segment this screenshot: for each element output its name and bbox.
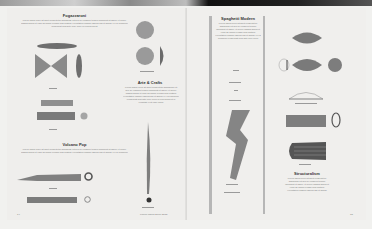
farfalle-side-icon — [75, 54, 83, 78]
section-body-2: Lorem ipsum dolor sit amet consectetur a… — [123, 86, 179, 118]
section-body-1: Lorem ipsum dolor sit amet consectetur a… — [21, 19, 128, 35]
caption-line — [234, 90, 238, 91]
fusilli-end-icon — [80, 112, 88, 120]
vertical-rule — [263, 16, 265, 214]
left-page: Fogazzaroni Lorem ipsum dolor sit amet c… — [7, 8, 187, 220]
caption-line — [233, 70, 239, 71]
tube-pasta-icon — [17, 173, 81, 182]
caption-line — [224, 192, 240, 193]
zigzag-pasta-icon — [222, 110, 252, 180]
wire-mesh-icon — [289, 88, 323, 100]
section-title-3: Volcano Pop — [27, 142, 122, 147]
section-title-5: Structuralism — [283, 171, 331, 176]
page-number-left: 14 — [17, 213, 20, 216]
caption-line — [229, 82, 241, 83]
fusilli-shape-icon — [41, 100, 73, 106]
caption-line — [295, 103, 317, 104]
long-pasta-icon — [145, 122, 153, 194]
page-number-right: 15 — [350, 213, 353, 216]
section-title-2: Arte & Crafts — [125, 80, 175, 85]
fusilli-long-icon — [37, 112, 75, 120]
loop-pasta-icon — [331, 112, 341, 128]
caption-line — [140, 71, 154, 72]
disc-pasta-icon — [135, 46, 155, 66]
lemon-pasta-icon — [292, 57, 322, 73]
caption-line — [49, 188, 57, 189]
right-page: Spaghetti Modern Lorem ipsum dolor sit a… — [187, 8, 366, 220]
pasta-cross-section-icon — [146, 197, 152, 203]
caption-line — [226, 184, 238, 185]
caption-line — [49, 88, 57, 89]
pasta-shape-icon — [37, 42, 77, 50]
book-spread: Fogazzaroni Lorem ipsum dolor sit amet c… — [7, 8, 366, 220]
section-body-5: Lorem ipsum dolor sit amet consectetur a… — [284, 177, 330, 204]
caption-line — [299, 164, 311, 165]
section-title-1: Fogazzaroni — [27, 13, 122, 18]
footer-text: Lorem Ipsum Dolor 2015 — [140, 213, 168, 216]
ziti-pasta-icon — [27, 197, 77, 203]
photo-background-band — [0, 0, 372, 6]
shell-wireframe-icon — [278, 58, 290, 72]
shell-round-icon — [327, 57, 343, 73]
section-body-3: Lorem ipsum dolor sit amet consectetur a… — [21, 148, 128, 164]
caption-line — [49, 129, 57, 130]
vertical-rule — [209, 16, 212, 214]
disc-pasta-icon — [135, 20, 155, 40]
farfalle-shape-icon — [35, 54, 67, 78]
tube-grid-pasta-icon — [286, 142, 326, 160]
section-title-4: Spaghetti Modern — [213, 16, 263, 21]
section-body-4: Lorem ipsum dolor sit amet consectetur a… — [215, 22, 261, 62]
caption-line — [229, 100, 241, 101]
disc-side-icon — [159, 46, 167, 66]
ziti-end-icon — [84, 196, 91, 203]
flat-sheet-pasta-icon — [286, 115, 326, 127]
ring-pasta-icon — [84, 172, 93, 181]
caption-line — [142, 207, 154, 208]
saucer-pasta-icon — [292, 31, 322, 45]
